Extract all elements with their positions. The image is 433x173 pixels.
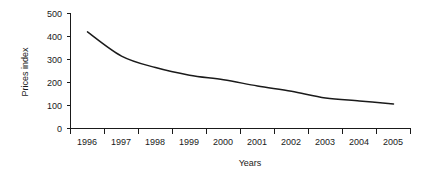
x-tick-label-1999: 1999 [179,137,199,147]
y-axis-title: Prices index [20,47,30,97]
chart-page: 500 400 300 200 100 0 1996 1997 1998 199… [0,0,433,173]
x-axis-title: Years [239,158,262,168]
x-tick-label-2003: 2003 [315,137,335,147]
x-tick-label-2000: 2000 [213,137,233,147]
y-tick-label-400: 400 [47,32,62,42]
x-tick-label-2001: 2001 [247,137,267,147]
chart-background [0,0,433,173]
y-tick-label-500: 500 [47,9,62,19]
x-tick-label-1997: 1997 [111,137,131,147]
line-chart: 500 400 300 200 100 0 1996 1997 1998 199… [0,0,433,173]
x-tick-label-2002: 2002 [281,137,301,147]
y-tick-label-0: 0 [57,124,62,134]
x-tick-label-2005: 2005 [383,137,403,147]
y-tick-label-100: 100 [47,101,62,111]
y-tick-label-300: 300 [47,55,62,65]
x-tick-label-1998: 1998 [145,137,165,147]
x-tick-label-1996: 1996 [77,137,97,147]
x-tick-label-2004: 2004 [349,137,369,147]
y-tick-label-200: 200 [47,78,62,88]
